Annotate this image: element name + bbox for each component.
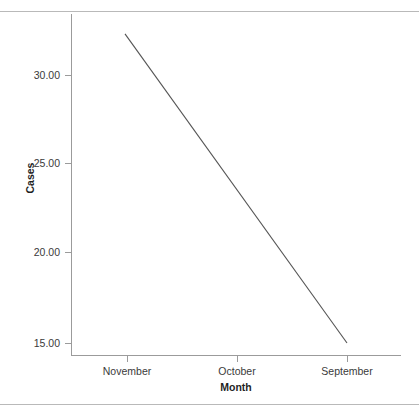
line-series-cases: [125, 34, 347, 343]
chart-figure: 30.00 25.00 20.00 15.00 November October…: [0, 0, 419, 415]
series-layer: [0, 0, 419, 415]
